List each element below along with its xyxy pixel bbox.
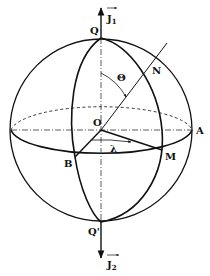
label-Q: Q	[90, 25, 99, 36]
label-J2: J2	[106, 259, 117, 272]
equator-front	[11, 130, 192, 153]
lambda-arc	[92, 140, 131, 142]
label-A: A	[195, 125, 204, 136]
label-theta: Θ	[117, 72, 126, 83]
label-Q-prime: Q'	[88, 226, 100, 237]
label-O: O	[93, 117, 102, 128]
label-J1: J1	[106, 13, 117, 26]
radius-ON	[101, 43, 167, 130]
label-lambda: λ	[110, 143, 117, 154]
label-B: B	[64, 158, 72, 169]
label-M: M	[165, 151, 176, 162]
label-N: N	[152, 65, 161, 76]
sphere-diagram: J1 J2 Q Q' O N A B M Θ λ	[0, 0, 210, 276]
